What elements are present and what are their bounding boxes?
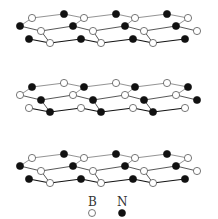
legend-label-boron: B <box>88 195 97 209</box>
hbn-diagram: B N <box>0 0 218 219</box>
nitrogen-atom <box>16 162 23 169</box>
boron-atom <box>131 154 138 161</box>
bond-line <box>93 26 125 31</box>
bn-layer-1 <box>16 10 200 46</box>
legend-label-nitrogen: N <box>117 195 128 209</box>
bn-layer-3 <box>16 150 200 186</box>
boron-atom <box>140 27 147 34</box>
bond-line <box>32 154 64 158</box>
bond-line <box>153 39 185 43</box>
boron-atom <box>149 179 156 186</box>
boron-atom <box>80 14 87 21</box>
legend-boron-icon <box>89 210 96 217</box>
boron-atom <box>181 104 188 111</box>
nitrogen-atom <box>25 35 32 42</box>
boron-atom <box>37 167 44 174</box>
nitrogen-atom <box>97 108 104 115</box>
boron-atom <box>129 104 136 111</box>
nitrogen-atom <box>37 96 44 103</box>
boron-atom <box>89 27 96 34</box>
bond-line <box>144 95 176 100</box>
nitrogen-atom <box>60 150 67 157</box>
nitrogen-atom <box>172 162 179 169</box>
boron-atom <box>69 91 76 98</box>
nitrogen-atom <box>193 96 200 103</box>
boron-atom <box>46 179 53 186</box>
nitrogen-atom <box>28 83 35 90</box>
boron-atom <box>60 79 67 86</box>
legend-nitrogen-icon <box>119 210 126 217</box>
boron-atom <box>89 167 96 174</box>
boron-atom <box>80 154 87 161</box>
bond-line <box>153 108 185 112</box>
boron-atom <box>28 154 35 161</box>
nitrogen-atom <box>181 35 188 42</box>
nitrogen-atom <box>181 175 188 182</box>
nitrogen-atom <box>46 108 53 115</box>
nitrogen-atom <box>112 150 119 157</box>
bond-line <box>144 26 176 31</box>
bond-line <box>41 26 73 31</box>
boron-atom <box>193 167 200 174</box>
bond-line <box>50 179 81 183</box>
bond-line <box>135 83 167 87</box>
bn-layer-2 <box>16 79 200 115</box>
nitrogen-atom <box>163 150 170 157</box>
nitrogen-atom <box>112 10 119 17</box>
bond-line <box>41 166 73 171</box>
nitrogen-atom <box>121 162 128 169</box>
bond-line <box>135 14 167 18</box>
boron-atom <box>184 14 191 21</box>
bond-line <box>93 166 125 171</box>
nitrogen-atom <box>69 162 76 169</box>
boron-atom <box>131 14 138 21</box>
bond-line <box>144 166 176 171</box>
boron-atom <box>97 179 104 186</box>
nitrogen-atom <box>25 175 32 182</box>
boron-atom <box>37 27 44 34</box>
legend: B N <box>88 195 128 217</box>
nitrogen-atom <box>121 22 128 29</box>
nitrogen-atom <box>80 83 87 90</box>
bond-line <box>84 154 116 158</box>
nitrogen-atom <box>69 22 76 29</box>
nitrogen-atom <box>60 10 67 17</box>
boron-atom <box>28 14 35 21</box>
nitrogen-atom <box>149 108 156 115</box>
boron-atom <box>77 104 84 111</box>
nitrogen-atom <box>163 10 170 17</box>
bond-line <box>101 39 133 43</box>
boron-atom <box>97 39 104 46</box>
boron-atom <box>172 91 179 98</box>
boron-atom <box>149 39 156 46</box>
boron-atom <box>140 167 147 174</box>
boron-atom <box>184 154 191 161</box>
bond-line <box>50 39 81 43</box>
nitrogen-atom <box>172 22 179 29</box>
bond-line <box>32 83 64 87</box>
bond-line <box>135 154 167 158</box>
nitrogen-atom <box>16 22 23 29</box>
nitrogen-atom <box>129 35 136 42</box>
nitrogen-atom <box>140 96 147 103</box>
nitrogen-atom <box>131 83 138 90</box>
nitrogen-atom <box>184 83 191 90</box>
boron-atom <box>193 27 200 34</box>
bond-line <box>41 95 73 100</box>
nitrogen-atom <box>77 175 84 182</box>
bond-line <box>101 179 133 183</box>
boron-atom <box>46 39 53 46</box>
boron-atom <box>163 79 170 86</box>
nitrogen-atom <box>77 35 84 42</box>
bond-line <box>84 14 116 18</box>
nitrogen-atom <box>89 96 96 103</box>
bond-line <box>101 108 133 112</box>
bond-line <box>50 108 81 112</box>
bond-line <box>153 179 185 183</box>
boron-atom <box>16 91 23 98</box>
bond-line <box>84 83 116 87</box>
nitrogen-atom <box>129 175 136 182</box>
boron-atom <box>25 104 32 111</box>
boron-atom <box>121 91 128 98</box>
boron-atom <box>112 79 119 86</box>
